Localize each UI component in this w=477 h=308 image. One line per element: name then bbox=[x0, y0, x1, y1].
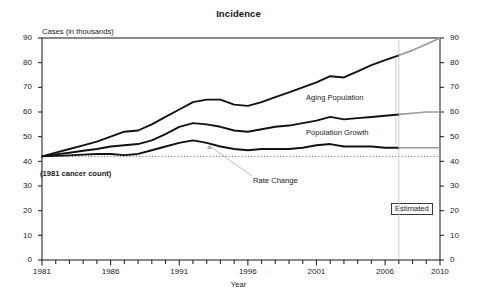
series-forecast-aging-population bbox=[399, 38, 440, 55]
chart-container: Incidence Cases (in thousands) Year 90 8… bbox=[0, 0, 477, 308]
series-line-population-growth bbox=[42, 114, 399, 156]
series-forecast-population-growth bbox=[399, 112, 440, 114]
series-line-aging-population bbox=[42, 55, 399, 156]
chart-svg bbox=[0, 0, 477, 308]
